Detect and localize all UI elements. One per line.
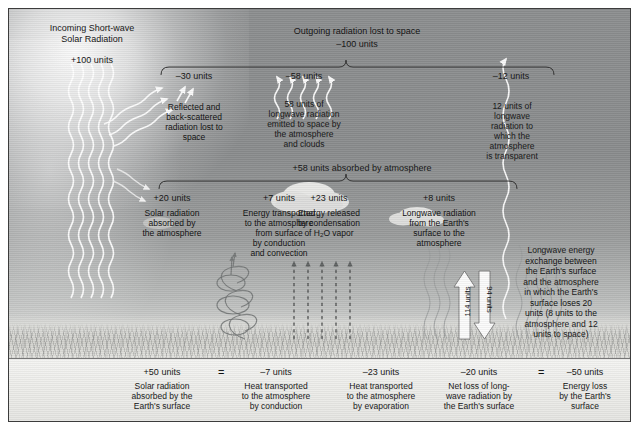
outgoing-desc-0: Reflected and back-scattered radiation l…: [139, 102, 249, 142]
budget-value-1: –7 units: [224, 367, 328, 378]
budget-desc-0-line-2: Earth's surface: [107, 401, 217, 411]
absorbed-desc-3-line-3: atmosphere: [379, 238, 499, 248]
outgoing-desc-1-line-0: 58 units of: [241, 99, 367, 109]
exchange-note-line-7: atmosphere and 12: [499, 319, 623, 330]
absorbed-value-0: +20 units: [117, 193, 227, 204]
budget-desc-2-line-2: by evaporation: [326, 401, 436, 411]
absorbed-desc-1-line-3: by conduction: [221, 238, 337, 248]
budget-desc-0-line-1: absorbed by the: [107, 391, 217, 401]
outgoing-value-2: –12 units: [456, 71, 566, 82]
outgoing-desc-1-line-1: longwave radiation: [241, 109, 367, 119]
absorbed-by-atmosphere-brace: [159, 174, 517, 189]
outgoing-desc-2: 12 units of longwave radiation to which …: [471, 101, 553, 161]
budget-desc-0-line-0: Solar radiation: [107, 381, 217, 391]
outgoing-desc-2-line-5: is transparent: [471, 151, 553, 161]
absorbed-desc-0-line-1: absorbed by: [117, 218, 227, 228]
budget-desc-2-line-1: to the atmosphere: [326, 391, 436, 401]
budget-desc-2: Heat transported to the atmosphere by ev…: [326, 381, 436, 411]
exchange-arrow-94-label-wrap: 94 units: [471, 275, 507, 329]
budget-desc-4: Energy loss by the Earth's surface: [541, 381, 629, 411]
absorbed-value-3: +8 units: [384, 193, 494, 204]
incoming-solar-value: +100 units: [27, 55, 157, 66]
outgoing-desc-1-line-4: and clouds: [241, 139, 367, 149]
absorbed-header-label: +58 units absorbed by atmosphere: [197, 163, 527, 174]
budget-desc-2-line-0: Heat transported: [326, 381, 436, 391]
budget-desc-1-line-0: Heat transported: [221, 381, 331, 391]
budget-desc-0: Solar radiation absorbed by the Earth's …: [107, 381, 217, 411]
convection-coil: [217, 253, 257, 339]
absorbed-desc-2-line-1: by condensation: [274, 218, 384, 228]
outgoing-desc-0-line-3: space: [139, 132, 249, 142]
budget-desc-3: Net loss of long- wave radiation by the …: [423, 381, 535, 411]
absorbed-desc-2-line-0: Energy released: [274, 208, 384, 218]
budget-value-0: +50 units: [112, 367, 212, 378]
budget-value-2: –23 units: [329, 367, 433, 378]
outgoing-value-1: –58 units: [249, 71, 359, 82]
outgoing-desc-1-line-3: the atmosphere: [241, 129, 367, 139]
absorbed-desc-3-line-0: Longwave radiation: [379, 208, 499, 218]
outgoing-desc-1: 58 units of longwave radiation emitted t…: [241, 99, 367, 149]
outgoing-value-0: –30 units: [139, 71, 249, 82]
incoming-solar-line2: Solar Radiation: [27, 34, 157, 45]
outgoing-desc-2-line-2: radiation to: [471, 121, 553, 131]
diagram-stage: Incoming Short-wave Solar Radiation +100…: [0, 0, 637, 428]
outgoing-desc-2-line-1: longwave: [471, 111, 553, 121]
budget-desc-3-line-1: wave radiation by: [423, 391, 535, 401]
budget-desc-4-line-1: by the Earth's: [541, 391, 629, 401]
absorbed-desc-0: Solar radiation absorbed by the atmosphe…: [117, 208, 227, 238]
evaporation-dashed-arrows: [294, 262, 350, 339]
incoming-solar-title: Incoming Short-wave Solar Radiation: [27, 23, 157, 44]
exchange-note: Longwave energy exchange between the Ear…: [499, 245, 623, 340]
absorbed-desc-0-line-2: the atmosphere: [117, 228, 227, 238]
exchange-note-line-6: units (8 units to the: [499, 308, 623, 319]
absorbed-value-2: +23 units: [274, 193, 384, 204]
outgoing-desc-2-line-4: atmosphere: [471, 141, 553, 151]
exchange-note-line-5: surface loses 20: [499, 298, 623, 309]
absorbed-desc-0-line-0: Solar radiation: [117, 208, 227, 218]
outgoing-desc-0-line-1: back-scattered: [139, 112, 249, 122]
energy-balance-figure: Incoming Short-wave Solar Radiation +100…: [8, 8, 631, 422]
reflected-arrows-up: [177, 87, 193, 103]
exchange-note-line-3: and the atmosphere: [499, 277, 623, 288]
budget-desc-3-line-2: the Earth's surface: [423, 401, 535, 411]
exchange-note-line-1: exchange between: [499, 256, 623, 267]
budget-desc-4-line-2: surface: [541, 401, 629, 411]
budget-desc-4-line-0: Energy loss: [541, 381, 629, 391]
exchange-note-line-4: in which the Earth's: [499, 287, 623, 298]
outgoing-desc-2-line-3: which the: [471, 131, 553, 141]
exchange-note-line-2: the Earth's surface: [499, 266, 623, 277]
absorbed-desc-2-line-2: of H2O vapor: [274, 228, 384, 239]
incoming-solar-rays: [69, 64, 114, 298]
outgoing-desc-1-line-2: emitted to space by: [241, 119, 367, 129]
exchange-arrow-94-label: 94 units: [485, 273, 494, 327]
budget-desc-1: Heat transported to the atmosphere by co…: [221, 381, 331, 411]
budget-desc-3-line-0: Net loss of long-: [423, 381, 535, 391]
budget-value-4: –50 units: [543, 367, 627, 378]
outgoing-desc-2-line-0: 12 units of: [471, 101, 553, 111]
outgoing-desc-0-line-2: radiation lost to: [139, 122, 249, 132]
exchange-note-line-8: units to space): [499, 329, 623, 340]
outgoing-desc-0-line-0: Reflected and: [139, 102, 249, 112]
absorbed-desc-2: Energy released by condensation of H2O v…: [274, 208, 384, 239]
budget-desc-1-line-1: to the atmosphere: [221, 391, 331, 401]
absorbed-desc-3-line-2: surface to the: [379, 228, 499, 238]
budget-desc-1-line-2: by conduction: [221, 401, 331, 411]
absorbed-desc-3: Longwave radiation from the Earth's surf…: [379, 208, 499, 248]
outgoing-header-value: –100 units: [217, 39, 497, 50]
incoming-solar-line1: Incoming Short-wave: [27, 23, 157, 34]
outgoing-header-label: Outgoing radiation lost to space: [217, 26, 497, 37]
exchange-note-line-0: Longwave energy: [499, 245, 623, 256]
budget-value-3: –20 units: [427, 367, 531, 378]
absorbed-desc-3-line-1: from the Earth's: [379, 218, 499, 228]
absorbed-desc-1-line-4: and convection: [221, 248, 337, 258]
